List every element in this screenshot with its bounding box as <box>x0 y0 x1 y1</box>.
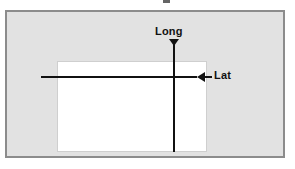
longitude-label: Long <box>155 25 183 37</box>
top-edge-artifact <box>163 0 170 3</box>
diagram-canvas: Long Lat <box>0 0 295 169</box>
longitude-line <box>173 43 175 152</box>
outer-frame <box>5 10 285 158</box>
arrow-left-tail <box>204 76 212 78</box>
latitude-line <box>41 76 197 78</box>
latitude-label: Lat <box>214 69 231 81</box>
inner-rectangle <box>57 61 207 152</box>
